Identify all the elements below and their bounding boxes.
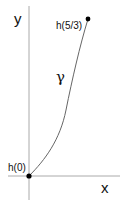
point-h0	[26, 173, 31, 178]
point-h53	[86, 17, 91, 22]
start-point-label: h(0)	[8, 163, 26, 173]
end-point-label: h(5/3)	[56, 21, 82, 31]
y-axis-label: y	[14, 11, 22, 26]
x-axis-label: x	[101, 180, 109, 195]
diagram-canvas	[0, 0, 128, 209]
curve-gamma	[29, 19, 88, 176]
curve-label: γ	[56, 70, 65, 85]
